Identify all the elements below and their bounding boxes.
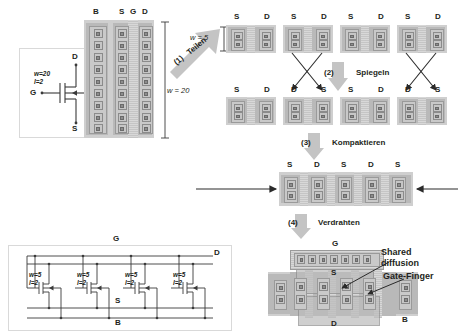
schematic-rail-label-s: S — [115, 297, 121, 305]
gate-contact — [308, 255, 316, 264]
gate-contact — [363, 255, 371, 264]
contact — [94, 77, 103, 86]
split-block — [283, 25, 333, 53]
schematic-transistor-l: l=2 — [173, 279, 182, 286]
compacted-col-label: S — [287, 161, 293, 169]
contact — [142, 53, 151, 62]
gate-contact — [319, 255, 327, 264]
split-block — [226, 25, 276, 53]
split-block — [340, 25, 390, 53]
split-block-label-right: D — [264, 13, 270, 21]
symbol-length-label: l=2 — [34, 78, 43, 85]
contact — [94, 124, 103, 133]
contact — [94, 53, 103, 62]
schematic-transistor-w: w=5 — [173, 271, 185, 278]
bulk-contact — [401, 283, 410, 292]
bulk-contact — [276, 295, 285, 304]
original-poly-gate — [128, 20, 138, 138]
contact — [118, 113, 127, 122]
contact — [142, 124, 151, 133]
contact — [94, 113, 103, 122]
mirrored-block — [226, 97, 276, 125]
contact — [142, 89, 151, 98]
mirrored-block-label-right: D — [378, 86, 384, 94]
mirrored-block-label-right: S — [321, 86, 327, 94]
gate-contact — [330, 255, 338, 264]
original-col-label-s: S — [119, 8, 125, 16]
schematic-transistor-w: w=5 — [77, 271, 89, 278]
bulk-contact — [276, 283, 285, 292]
contact — [142, 77, 151, 86]
contact — [296, 295, 305, 304]
contact — [118, 89, 127, 98]
final-label-d: D — [331, 320, 337, 328]
compacted-col-label: D — [368, 161, 374, 169]
split-block-label-right: D — [321, 13, 327, 21]
contact — [118, 77, 127, 86]
contact — [319, 295, 328, 304]
contact — [118, 101, 127, 110]
gate-contact — [297, 255, 305, 264]
contact — [118, 124, 127, 133]
original-col-label-d: D — [142, 8, 148, 16]
schematic-transistor-l: l=2 — [125, 279, 134, 286]
schematic-transistor-w: w=5 — [125, 271, 137, 278]
gate-contact — [341, 255, 349, 264]
step3-label: Kompaktieren — [332, 138, 385, 147]
split-block-label-left: S — [405, 13, 411, 21]
mirrored-block-label-left: D — [291, 86, 297, 94]
gate-contact — [352, 255, 360, 264]
contact — [118, 53, 127, 62]
contact — [342, 295, 351, 304]
diagram-canvas: D S G B w=20 l=2 B S G D — [0, 0, 460, 335]
symbol-width-label: w=20 — [34, 70, 50, 77]
schematic-rail-label-d: D — [214, 249, 220, 257]
contact — [142, 101, 151, 110]
mirrored-block-label-left: S — [348, 86, 354, 94]
schematic-transistor-l: l=2 — [29, 279, 38, 286]
final-label-g: G — [332, 240, 338, 248]
step2-label: Spiegeln — [356, 68, 389, 77]
symbol-terminal-d: D — [72, 53, 78, 61]
compacted-row — [279, 172, 413, 206]
contact — [118, 65, 127, 74]
contact — [365, 282, 374, 291]
split-block — [397, 25, 447, 53]
final-label-b: B — [402, 316, 408, 324]
mirrored-block-label-left: S — [234, 86, 240, 94]
mirrored-block — [397, 97, 447, 125]
contact — [118, 29, 127, 38]
schematic-rail-label-b: B — [115, 319, 121, 327]
split-block-label-left: S — [291, 13, 297, 21]
contact — [94, 89, 103, 98]
symbol-terminal-s: S — [72, 125, 78, 133]
original-col-label-g: G — [130, 8, 136, 16]
contact — [94, 65, 103, 74]
contact — [94, 101, 103, 110]
shared-diffusion-annotation-line2: diffusion — [381, 259, 419, 269]
split-block-label-left: S — [348, 13, 354, 21]
split-block-label-right: D — [435, 13, 441, 21]
shared-diffusion-annotation-line1: Shared — [381, 248, 412, 258]
compacted-col-label: S — [395, 161, 401, 169]
split-block-label-right: D — [378, 13, 384, 21]
step2-number: (2) — [324, 68, 334, 77]
bulk-contact — [401, 295, 410, 304]
contact — [142, 65, 151, 74]
symbol-terminal-g: G — [30, 89, 36, 97]
step4-label: Verdrahten — [318, 218, 360, 227]
compacted-col-label: S — [341, 161, 347, 169]
contact — [94, 41, 103, 50]
contact — [94, 29, 103, 38]
contact — [365, 295, 374, 304]
schematic-transistor-l: l=2 — [77, 279, 86, 286]
step3-number: (3) — [301, 138, 311, 147]
compacted-col-label: D — [314, 161, 320, 169]
split-block-label-left: S — [234, 13, 240, 21]
schematic-panel: G D S B w=5 l=2 w=5 l=2 w=5 l=2 w=5 l=2 — [8, 245, 232, 331]
contact — [142, 41, 151, 50]
dimension-w20-label: w = 20 — [167, 86, 189, 95]
contact — [319, 282, 328, 291]
mirrored-block-label-right: S — [435, 86, 441, 94]
original-col-label-b: B — [93, 8, 99, 16]
